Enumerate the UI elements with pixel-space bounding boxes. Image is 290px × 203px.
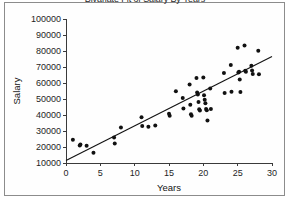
data-point	[238, 90, 242, 94]
chart-container: Bivariate Fit of Salary By Years 1000020…	[0, 0, 290, 203]
y-tick-label: 60000	[36, 78, 61, 88]
data-point	[203, 98, 207, 102]
data-point	[256, 49, 260, 53]
data-point	[223, 91, 227, 95]
y-tick-label: 50000	[36, 94, 61, 104]
data-point	[113, 141, 117, 145]
x-tick-label: 25	[233, 168, 243, 178]
data-point	[140, 124, 144, 128]
data-point	[140, 115, 144, 119]
data-point	[153, 124, 157, 128]
data-point	[205, 118, 209, 122]
y-tick-label: 90000	[36, 30, 61, 40]
x-tick-label: 5	[98, 168, 103, 178]
y-tick-label: 80000	[36, 46, 61, 56]
scatter-plot: 1000020000300004000050000600007000080000…	[0, 0, 290, 203]
y-tick-label: 70000	[36, 62, 61, 72]
data-point	[174, 89, 178, 93]
x-tick-label: 10	[130, 168, 140, 178]
data-point	[201, 76, 205, 80]
data-point	[209, 107, 213, 111]
data-point	[196, 93, 200, 97]
data-point	[78, 142, 82, 146]
x-tick-label: 0	[63, 168, 68, 178]
data-point	[91, 151, 95, 155]
data-point	[181, 96, 185, 100]
data-point	[181, 107, 185, 111]
data-point	[202, 93, 206, 97]
data-point	[197, 100, 201, 104]
data-point	[249, 64, 253, 68]
data-point	[205, 108, 209, 112]
data-point	[243, 44, 247, 48]
data-point	[238, 77, 242, 81]
data-point	[71, 138, 75, 142]
data-point	[190, 114, 194, 118]
data-point	[194, 76, 198, 80]
data-point	[229, 63, 233, 67]
y-tick-label: 30000	[36, 126, 61, 136]
regression-fit-line	[66, 57, 272, 161]
x-axis-title: Years	[157, 182, 181, 193]
data-point	[203, 101, 207, 105]
data-point	[188, 103, 192, 107]
data-point	[85, 144, 89, 148]
x-tick-label: 20	[198, 168, 208, 178]
data-point	[229, 90, 233, 94]
data-point	[237, 70, 241, 74]
data-point	[198, 109, 202, 113]
x-tick-label: 30	[267, 168, 277, 178]
data-point	[188, 83, 192, 87]
x-tick-label: 15	[164, 168, 174, 178]
y-tick-label: 10000	[36, 158, 61, 168]
data-point	[208, 86, 212, 90]
y-tick-label: 20000	[36, 142, 61, 152]
y-tick-label: 40000	[36, 110, 61, 120]
data-point	[146, 125, 150, 129]
data-point	[251, 72, 255, 76]
data-point	[236, 46, 240, 50]
data-point	[168, 114, 172, 118]
data-point	[119, 125, 123, 129]
data-point	[112, 135, 116, 139]
y-tick-label: 100000	[31, 14, 61, 24]
y-axis-title: Salary	[11, 77, 22, 104]
data-point	[244, 70, 248, 74]
data-points	[71, 44, 261, 155]
data-point	[222, 71, 226, 75]
data-point	[257, 72, 261, 76]
data-point	[250, 69, 254, 73]
chart-title: Bivariate Fit of Salary By Years	[0, 0, 290, 5]
